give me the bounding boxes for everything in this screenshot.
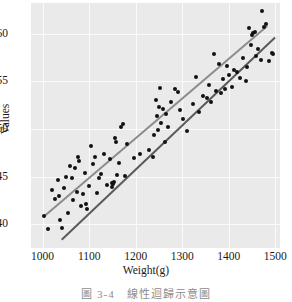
scatter-point — [53, 197, 57, 201]
scatter-point — [214, 89, 218, 93]
x-tick-label: 1500 — [245, 251, 292, 263]
scatter-point — [238, 76, 242, 80]
scatter-point — [267, 59, 271, 63]
scatter-point — [241, 56, 245, 60]
scatter-point — [138, 152, 142, 156]
plot-area — [31, 3, 280, 248]
y-tick-label: 60 — [0, 28, 8, 40]
y-tick-label: 40 — [0, 218, 8, 230]
scatter-point — [117, 161, 121, 165]
scatter-point — [99, 172, 103, 176]
scatter-point — [112, 180, 116, 184]
scatter-point — [244, 79, 248, 83]
scatter-point — [217, 62, 221, 66]
scatter-point — [235, 70, 239, 74]
scatter-point — [212, 52, 216, 56]
scatter-point — [159, 121, 163, 125]
scatter-point — [79, 204, 83, 208]
scatter-point — [108, 157, 112, 161]
gridline-horizontal — [31, 34, 280, 35]
scatter-point — [219, 91, 223, 95]
scatter-point — [230, 85, 234, 89]
scatter-point — [64, 175, 68, 179]
scatter-point — [81, 192, 85, 196]
scatter-point — [105, 183, 109, 187]
scatter-point — [42, 214, 46, 218]
scatter-point — [68, 164, 72, 168]
scatter-point — [77, 159, 81, 163]
y-tick-label: 55 — [0, 75, 8, 87]
scatter-point — [249, 43, 253, 47]
scatter-point — [163, 140, 167, 144]
scatter-point — [227, 73, 231, 77]
gridline-vertical — [229, 3, 230, 248]
scatter-point — [209, 100, 213, 104]
x-axis-title: Weight(g) — [0, 264, 292, 276]
scatter-point — [191, 102, 195, 106]
scatter-point — [115, 173, 119, 177]
scatter-point — [154, 98, 158, 102]
scatter-point — [70, 176, 74, 180]
scatter-point — [152, 133, 156, 137]
y-tick-label: 45 — [0, 171, 8, 183]
gridline-horizontal — [31, 224, 280, 225]
scatter-point — [256, 47, 260, 51]
scatter-point — [271, 52, 275, 56]
scatter-point — [158, 86, 162, 90]
scatter-point — [264, 22, 268, 26]
scatter-point — [84, 202, 88, 206]
gridline-vertical — [43, 3, 44, 248]
scatter-point — [71, 198, 75, 202]
scatter-point — [66, 211, 70, 215]
scatter-point — [50, 188, 54, 192]
scatter-point — [89, 144, 93, 148]
scatter-point — [247, 26, 251, 30]
scatter-point — [147, 148, 151, 152]
scatter-point — [194, 75, 198, 79]
scatter-point — [151, 155, 155, 159]
scatter-point — [75, 190, 79, 194]
scatter-point — [169, 100, 173, 104]
scatter-point — [197, 110, 201, 114]
scatter-point — [95, 191, 99, 195]
scatter-point — [245, 65, 249, 69]
scatter-point — [102, 152, 106, 156]
gridline-horizontal — [31, 177, 280, 178]
scatter-point — [156, 128, 160, 132]
scatter-point — [62, 186, 66, 190]
scatter-point — [97, 176, 101, 180]
scatter-point — [161, 107, 165, 111]
scatter-point — [57, 194, 61, 198]
scatter-point — [253, 30, 257, 34]
scatter-point — [223, 87, 227, 91]
fit-line-lower — [61, 37, 276, 241]
scatter-point — [121, 122, 125, 126]
figure-caption: 圖 3-4 線性迴歸示意圖 — [0, 288, 292, 301]
scatter-point — [114, 140, 118, 144]
scatter-point — [205, 96, 209, 100]
y-axis-title: Values — [0, 89, 11, 149]
scatter-point — [164, 112, 168, 116]
scatter-point — [58, 218, 62, 222]
scatter-point — [93, 155, 97, 159]
fit-line-upper — [43, 25, 268, 217]
scatter-point — [73, 166, 77, 170]
scatter-point — [87, 184, 91, 188]
scatter-point — [56, 178, 60, 182]
scatter-point — [91, 162, 95, 166]
scatter-point — [83, 171, 87, 175]
scatter-point — [176, 90, 180, 94]
scatter-point — [123, 174, 127, 178]
scatter-point — [254, 54, 258, 58]
gridline-horizontal — [31, 81, 280, 82]
scatter-point — [46, 227, 50, 231]
gridline-vertical — [136, 3, 137, 248]
figure-container: 4045505560 100011001200130014001500 Valu… — [0, 0, 292, 302]
scatter-point — [225, 64, 229, 68]
scatter-point — [259, 58, 263, 62]
scatter-point — [260, 9, 264, 13]
scatter-point — [60, 226, 64, 230]
gridline-vertical — [275, 3, 276, 248]
scatter-point — [155, 114, 159, 118]
scatter-point — [207, 83, 211, 87]
